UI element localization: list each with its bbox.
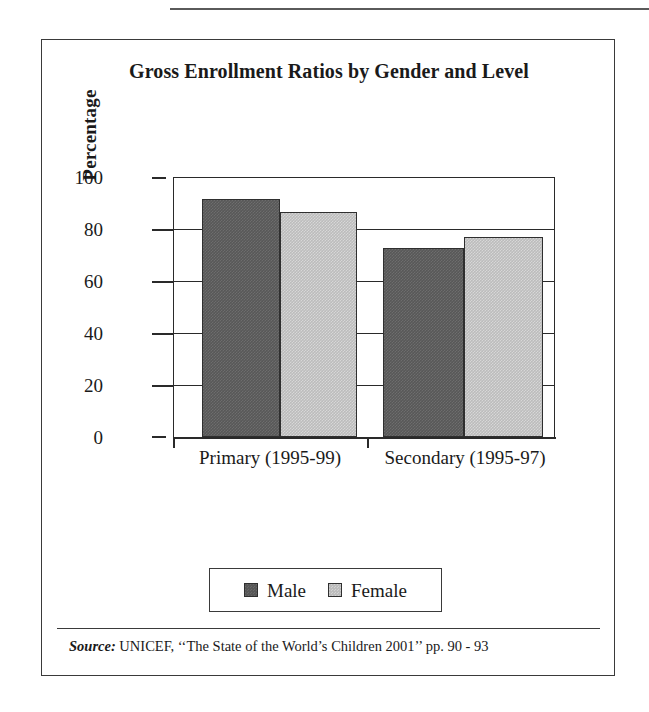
bar-male-secondary <box>383 248 464 437</box>
x-tick-mid <box>367 437 369 448</box>
y-tick-40 <box>165 333 174 335</box>
source-divider <box>57 628 600 629</box>
source-prefix: Source: <box>69 638 116 654</box>
x-category-label-secondary: Secondary (1995-97) <box>370 447 560 469</box>
bar-male-primary <box>202 199 280 437</box>
bar-female-secondary <box>464 237 543 437</box>
y-tick-outer-0 <box>152 436 166 438</box>
y-axis-title: Percentage <box>79 35 101 235</box>
page-top-rule <box>170 8 649 10</box>
x-tick-start <box>173 437 175 448</box>
source-text: UNICEF, ‘‘The State of the World’s Child… <box>119 638 488 654</box>
bar-female-primary <box>280 212 357 437</box>
legend-swatch-female-icon <box>328 583 342 597</box>
y-tick-outer-80 <box>152 229 166 231</box>
y-tick-label-100: 100 <box>43 168 103 187</box>
y-tick-outer-40 <box>152 333 166 335</box>
plot-wrapper: Percentage 100 80 60 40 20 0 <box>42 40 616 677</box>
y-tick-20 <box>165 385 174 387</box>
y-tick-label-60: 60 <box>43 272 103 291</box>
y-tick-label-20: 20 <box>43 376 103 395</box>
legend-swatch-male-icon <box>244 583 258 597</box>
y-tick-outer-60 <box>152 281 166 283</box>
y-tick-80 <box>165 229 174 231</box>
legend-label-male: Male <box>267 581 306 600</box>
y-tick-outer-100 <box>152 177 166 179</box>
legend-item-female: Female <box>328 581 407 600</box>
y-tick-label-0: 0 <box>43 428 103 447</box>
source-note: Source: UNICEF, ‘‘The State of the World… <box>69 637 589 655</box>
x-category-label-primary: Primary (1995-99) <box>180 447 360 469</box>
legend-label-female: Female <box>351 581 407 600</box>
x-axis-baseline <box>173 437 556 439</box>
plot-area: Primary (1995-99) Secondary (1995-97) <box>173 177 555 437</box>
figure-frame: Gross Enrollment Ratios by Gender and Le… <box>41 39 615 676</box>
y-tick-60 <box>165 281 174 283</box>
y-tick-label-40: 40 <box>43 324 103 343</box>
chart-legend: Male Female <box>209 568 442 612</box>
y-tick-label-80: 80 <box>43 220 103 239</box>
legend-item-male: Male <box>244 581 306 600</box>
y-tick-outer-20 <box>152 385 166 387</box>
